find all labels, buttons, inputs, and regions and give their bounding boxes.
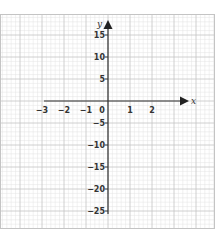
y-axis-label: y [96, 19, 103, 29]
y-tick-label: 5 [99, 75, 105, 84]
x-axis: x [44, 96, 196, 106]
x-tick-label: 0 [99, 106, 105, 115]
y-tick-label: −5 [93, 119, 106, 128]
minor-grid [0, 15, 215, 229]
y-tick-label: −15 [87, 163, 105, 172]
y-tick-label: −25 [87, 207, 105, 216]
y-tick-label: −10 [87, 141, 105, 150]
coordinate-grid: x y −3−2−1012 15105−5−10−15−20−25 [0, 0, 223, 236]
x-tick-label: 1 [127, 106, 133, 115]
x-tick-label: −1 [80, 106, 93, 115]
x-tick-label: 2 [149, 106, 155, 115]
y-tick-label: 10 [94, 53, 106, 62]
y-axis-arrow-icon [104, 20, 113, 29]
x-tick-label: −2 [58, 106, 70, 115]
major-grid [0, 15, 215, 229]
y-tick-label: −20 [87, 185, 105, 194]
x-axis-arrow-icon [180, 97, 189, 106]
x-tick-labels: −3−2−1012 [36, 106, 155, 115]
y-tick-label: 15 [94, 31, 106, 40]
x-tick-label: −3 [36, 106, 48, 115]
x-axis-label: x [191, 96, 196, 106]
